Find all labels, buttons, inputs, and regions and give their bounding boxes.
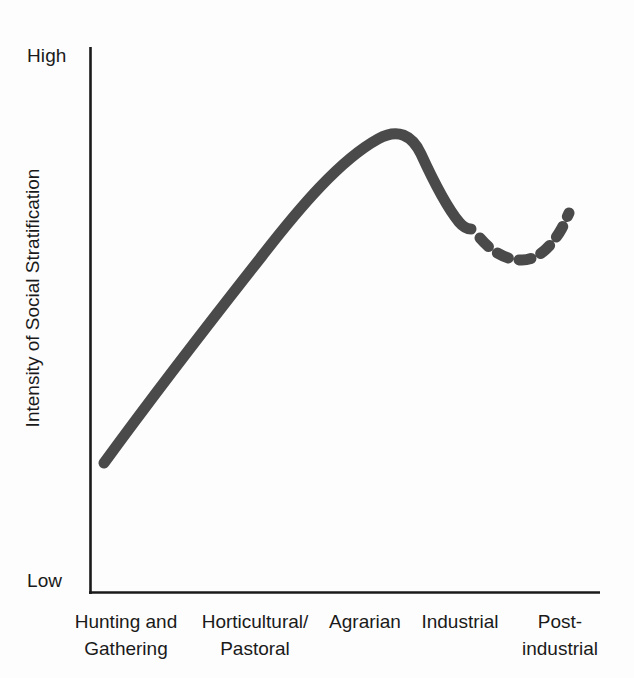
plot-area xyxy=(0,0,634,678)
x-category-horticultural-pastoral: Horticultural/ Pastoral xyxy=(192,608,318,662)
y-axis-high-label: High xyxy=(27,45,66,67)
x-category-post-industrial: Post- industrial xyxy=(500,608,620,662)
category-line-2: Gathering xyxy=(62,635,190,662)
x-category-agrarian: Agrarian xyxy=(320,608,410,635)
stratification-curve-dashed xyxy=(480,213,569,260)
category-line-1: Industrial xyxy=(414,608,506,635)
stratification-curve-solid xyxy=(104,134,471,463)
category-line-1: Hunting and xyxy=(62,608,190,635)
category-line-1: Agrarian xyxy=(320,608,410,635)
y-axis-low-label: Low xyxy=(27,570,62,592)
category-line-1: Post- xyxy=(500,608,620,635)
x-category-hunting-and-gathering: Hunting and Gathering xyxy=(62,608,190,662)
category-line-2: Pastoral xyxy=(192,635,318,662)
x-category-industrial: Industrial xyxy=(414,608,506,635)
category-line-1: Horticultural/ xyxy=(192,608,318,635)
chart-figure: High Low Intensity of Social Stratificat… xyxy=(0,0,634,678)
y-axis-title: Intensity of Social Stratification xyxy=(22,88,44,508)
x-axis-category-labels: Hunting and Gathering Horticultural/ Pas… xyxy=(0,608,634,672)
category-line-2: industrial xyxy=(500,635,620,662)
